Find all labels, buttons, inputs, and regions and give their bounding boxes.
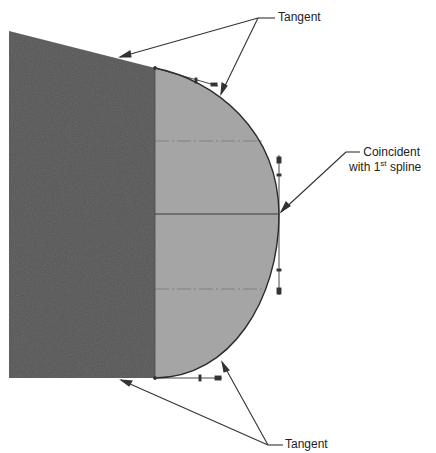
bottom-tangent-label: Tangent <box>285 437 328 452</box>
coincident-label-suffix: spline <box>387 160 422 174</box>
coincident-label-line2: with 1st spline <box>349 160 421 175</box>
spline-region <box>155 68 279 378</box>
dark-body-section <box>9 31 155 378</box>
top-tangent-label: Tangent <box>278 10 321 25</box>
spline-diagram <box>0 0 436 453</box>
coincident-label-line1: Coincident <box>362 145 421 160</box>
coincident-label: Coincident with 1st spline <box>362 145 421 175</box>
coincident-label-prefix: with 1 <box>349 160 380 174</box>
